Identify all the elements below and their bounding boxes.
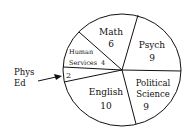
slice-value-humserv: 4 (101, 59, 105, 67)
annotation-arrow-shaft (38, 77, 56, 81)
slice-value-english: 10 (100, 101, 112, 111)
slice-label-polsci-line2: Science (136, 89, 170, 99)
annotation-arrow-head-icon (54, 74, 62, 80)
annotation-physed-line2: Ed (14, 78, 26, 88)
slice-value-polsci: 9 (143, 102, 149, 112)
slice-label-math: Math (99, 27, 123, 37)
slice-value-physed: 2 (66, 71, 71, 80)
slice-label-psych: Psych (139, 40, 166, 50)
slice-label-polsci-line1: Political (136, 78, 171, 88)
annotation-physed-line1: Phys (14, 67, 34, 77)
slice-label-humserv-line2: Services (69, 59, 97, 67)
slice-value-math: 6 (108, 39, 114, 49)
slice-label-english: English (89, 87, 124, 97)
pie-chart: Math 6 Psych 9 Political Science 9 Engli… (0, 0, 192, 134)
slice-label-humserv-line1: Human (69, 48, 93, 56)
slice-value-psych: 9 (149, 53, 155, 63)
